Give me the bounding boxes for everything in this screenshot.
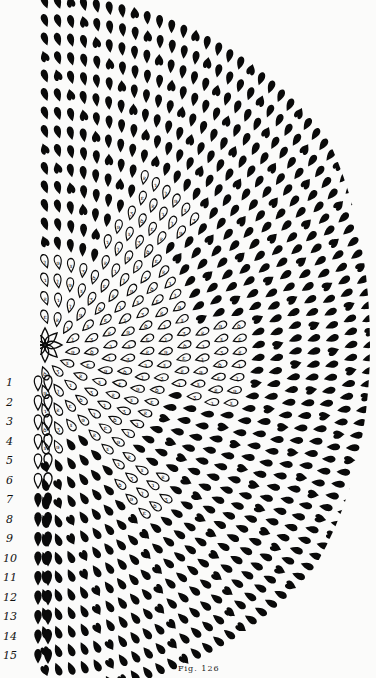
row-label-14: 14 bbox=[3, 630, 17, 643]
svg-text:ɤ: ɤ bbox=[136, 298, 140, 305]
svg-text:ꝺ: ꝺ bbox=[146, 248, 150, 255]
figure-caption: Fig. 126 bbox=[178, 664, 220, 673]
svg-text:ɿ: ɿ bbox=[103, 401, 106, 408]
row-label-13: 13 bbox=[3, 610, 17, 623]
svg-text:ɿ: ɿ bbox=[163, 322, 166, 329]
svg-text:ɤ: ɤ bbox=[106, 445, 110, 452]
svg-text:ɘ: ɘ bbox=[104, 367, 108, 374]
svg-text:ɤ: ɤ bbox=[98, 378, 102, 385]
svg-text:ε: ε bbox=[104, 316, 107, 323]
svg-text:ɘ: ɘ bbox=[81, 416, 85, 423]
svg-text:ʅ: ʅ bbox=[44, 258, 47, 266]
svg-text:ɘ: ɘ bbox=[68, 281, 72, 288]
svg-text:ε: ε bbox=[156, 297, 159, 304]
row-label-1: 1 bbox=[6, 376, 13, 389]
svg-text:ʅ: ʅ bbox=[236, 374, 239, 382]
svg-text:ɘ: ɘ bbox=[179, 229, 183, 236]
svg-text:ε: ε bbox=[43, 313, 46, 320]
svg-text:ʅ: ʅ bbox=[69, 302, 72, 310]
svg-text:ɘ: ɘ bbox=[126, 254, 130, 261]
svg-text:ɤ: ɤ bbox=[136, 263, 140, 270]
row-label-11: 11 bbox=[3, 571, 17, 584]
svg-text:ƨ: ƨ bbox=[160, 235, 163, 242]
svg-text:ʒ: ʒ bbox=[122, 407, 126, 415]
svg-text:ε: ε bbox=[86, 361, 89, 368]
svg-text:ε: ε bbox=[104, 424, 107, 431]
svg-text:ƨ: ƨ bbox=[151, 202, 154, 209]
svg-text:ꝺ: ꝺ bbox=[237, 322, 241, 329]
svg-text:ƨ: ƨ bbox=[111, 292, 114, 299]
svg-text:ɘ: ɘ bbox=[117, 223, 121, 230]
row-label-5: 5 bbox=[6, 454, 13, 467]
svg-text:ꝺ: ꝺ bbox=[140, 217, 144, 224]
svg-text:ƨ: ƨ bbox=[111, 391, 114, 398]
svg-text:ƨ: ƨ bbox=[108, 329, 111, 336]
svg-text:ƨ: ƨ bbox=[93, 431, 96, 438]
svg-text:ɤ: ɤ bbox=[69, 262, 73, 269]
svg-text:ɿ: ɿ bbox=[144, 361, 147, 368]
svg-text:ɘ: ɘ bbox=[199, 368, 203, 375]
svg-text:ʅ: ʅ bbox=[123, 276, 126, 284]
svg-text:ɤ: ɤ bbox=[220, 335, 224, 342]
svg-text:ε: ε bbox=[150, 398, 153, 405]
svg-text:ʅ: ʅ bbox=[123, 316, 126, 324]
svg-text:ɘ: ɘ bbox=[177, 303, 181, 310]
svg-text:ʒ: ʒ bbox=[193, 393, 197, 401]
svg-text:ε: ε bbox=[143, 509, 146, 516]
svg-text:ƨ: ƨ bbox=[56, 406, 59, 413]
figure-canvas: εƨɿʅɘɤʒꝺƨɿʅɘɤʒꝺεƨɿʅɘɿʅɘɤʒꝺεƨɿʅɘɤʒꝺεƨɿʅɘɤ… bbox=[0, 0, 376, 678]
svg-text:ɿ: ɿ bbox=[66, 324, 69, 331]
svg-text:ƨ: ƨ bbox=[143, 174, 146, 181]
svg-text:ɿ: ɿ bbox=[114, 267, 117, 274]
svg-text:ɘ: ɘ bbox=[71, 348, 75, 355]
svg-text:ε: ε bbox=[118, 380, 121, 387]
svg-text:ʒ: ʒ bbox=[192, 216, 196, 224]
svg-text:ʒ: ʒ bbox=[130, 209, 134, 217]
svg-text:ƨ: ƨ bbox=[56, 316, 59, 323]
svg-text:ɿ: ɿ bbox=[44, 276, 47, 283]
svg-text:ε: ε bbox=[69, 402, 72, 409]
svg-text:ɿ: ɿ bbox=[57, 296, 60, 303]
svg-text:ꝺ: ꝺ bbox=[153, 502, 157, 509]
svg-text:ɘ: ɘ bbox=[126, 328, 130, 335]
svg-text:ɿ: ɿ bbox=[136, 420, 139, 427]
svg-text:ꝺ: ꝺ bbox=[113, 416, 117, 423]
svg-text:ʅ: ʅ bbox=[141, 373, 144, 381]
svg-text:ε: ε bbox=[217, 374, 220, 381]
svg-text:ɘ: ɘ bbox=[130, 495, 134, 502]
row-label-8: 8 bbox=[6, 513, 13, 526]
petal-fan-diagram: εƨɿʅɘɤʒꝺƨɿʅɘɤʒꝺεƨɿʅɘɿʅɘɤʒꝺεƨɿʅɘɤʒꝺεƨɿʅɘɤ… bbox=[0, 0, 376, 678]
row-label-12: 12 bbox=[3, 591, 17, 604]
svg-text:ƨ: ƨ bbox=[162, 268, 165, 275]
svg-text:ɘ: ɘ bbox=[164, 348, 168, 355]
svg-text:ɿ: ɿ bbox=[211, 399, 214, 406]
svg-text:ɘ: ɘ bbox=[79, 311, 83, 318]
svg-text:ʅ: ʅ bbox=[174, 291, 177, 299]
svg-text:ɘ: ɘ bbox=[130, 287, 134, 294]
svg-text:ɤ: ɤ bbox=[130, 396, 134, 403]
svg-text:ꝺ: ꝺ bbox=[144, 322, 148, 329]
svg-text:ƨ: ƨ bbox=[128, 453, 131, 460]
svg-text:ɤ: ɤ bbox=[163, 361, 167, 368]
svg-text:ʅ: ʅ bbox=[57, 387, 60, 395]
svg-text:ɘ: ɘ bbox=[174, 197, 178, 204]
svg-text:ɿ: ɿ bbox=[118, 303, 121, 310]
svg-text:ɘ: ɘ bbox=[219, 322, 223, 329]
svg-text:ɤ: ɤ bbox=[197, 380, 201, 387]
svg-text:ƨ: ƨ bbox=[79, 372, 82, 379]
row-label-7: 7 bbox=[6, 493, 13, 506]
row-label-10: 10 bbox=[3, 552, 17, 565]
svg-text:ʒ: ʒ bbox=[164, 495, 168, 503]
row-label-15: 15 bbox=[3, 649, 17, 662]
svg-text:ʒ: ʒ bbox=[141, 310, 145, 318]
svg-text:ƨ: ƨ bbox=[161, 473, 164, 480]
svg-text:ꝺ: ꝺ bbox=[218, 361, 222, 368]
svg-text:ɿ: ɿ bbox=[117, 460, 120, 467]
svg-text:ƨ: ƨ bbox=[160, 309, 163, 316]
svg-text:ε: ε bbox=[146, 335, 149, 342]
svg-text:ε: ε bbox=[103, 282, 106, 289]
svg-text:ʅ: ʅ bbox=[171, 219, 174, 227]
svg-text:ʅ: ʅ bbox=[164, 189, 167, 197]
svg-text:ƨ: ƨ bbox=[144, 409, 147, 416]
svg-text:ʒ: ʒ bbox=[144, 274, 148, 282]
